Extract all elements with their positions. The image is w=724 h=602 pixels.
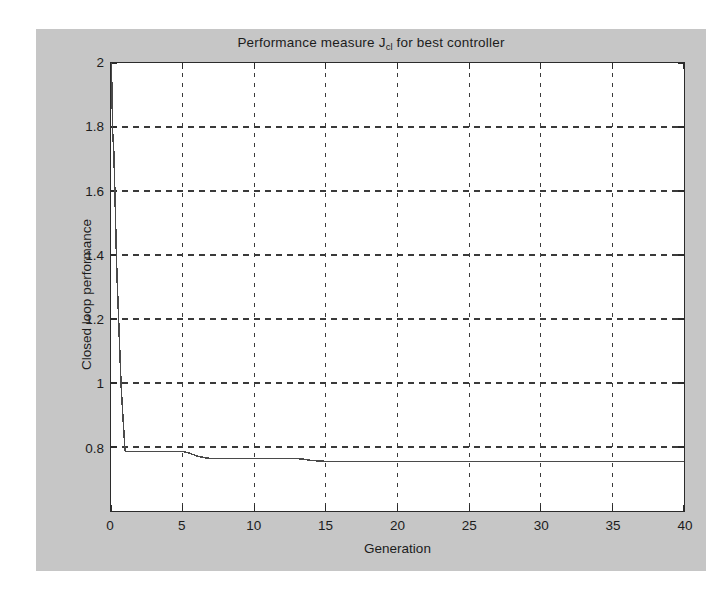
- x-tick-label: 30: [534, 518, 549, 533]
- x-tick-label: 10: [246, 518, 261, 533]
- x-tick-label: 20: [390, 518, 405, 533]
- x-tick-label: 0: [106, 518, 114, 533]
- y-axis-title: Closed loop performance: [79, 170, 94, 420]
- matlab-figure: Performance measure Jcl for best control…: [36, 29, 706, 571]
- y-tick-label: 1: [96, 376, 104, 391]
- x-tick-label: 15: [318, 518, 333, 533]
- vertical-gridlines: [183, 63, 613, 511]
- plot-axes: [110, 62, 685, 512]
- y-tick-label: 2: [96, 55, 104, 70]
- performance-curve: [111, 63, 684, 462]
- y-tick-label: 0.8: [85, 440, 104, 455]
- x-tick-label: 40: [677, 518, 692, 533]
- chart-title-tail: for best controller: [393, 35, 505, 50]
- x-axis-title: Generation: [110, 541, 685, 556]
- x-tick-label: 25: [462, 518, 477, 533]
- chart-title-subscript: cl: [386, 41, 393, 52]
- x-tick-label: 5: [178, 518, 186, 533]
- page-canvas: Performance measure Jcl for best control…: [0, 0, 724, 602]
- y-tick-label: 1.8: [85, 119, 104, 134]
- plot-svg: [111, 63, 684, 511]
- x-axis-tick-labels: 0510152025303540: [110, 518, 685, 540]
- chart-title-main: Performance measure J: [237, 35, 385, 50]
- chart-title: Performance measure Jcl for best control…: [36, 35, 706, 52]
- x-tick-label: 35: [606, 518, 621, 533]
